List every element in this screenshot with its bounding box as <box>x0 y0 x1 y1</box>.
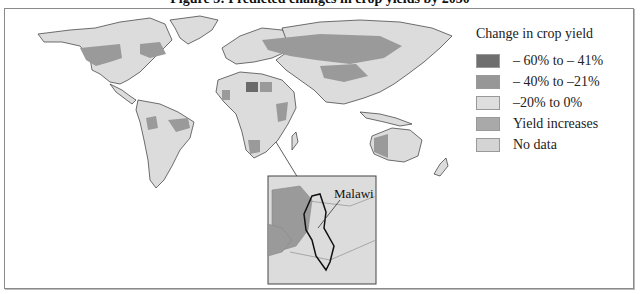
madagascar <box>292 132 298 150</box>
legend-label: – 60% to – 41% <box>513 53 603 69</box>
legend-item: – 40% to –21% <box>476 71 636 92</box>
indonesia <box>360 112 412 126</box>
legend-item: –20% to 0% <box>476 92 636 113</box>
legend-item: – 60% to – 41% <box>476 50 636 71</box>
legend-swatch <box>476 117 500 131</box>
west-africa-decline <box>222 90 230 100</box>
peru-decline <box>146 116 158 130</box>
legend-title: Change in crop yield <box>476 26 636 42</box>
legend-item: No data <box>476 134 636 155</box>
legend-label: No data <box>513 137 557 153</box>
legend-label: Yield increases <box>513 116 598 132</box>
southern-africa-decline <box>248 140 260 154</box>
legend-label: – 40% to –21% <box>513 74 600 90</box>
new-zealand <box>434 158 448 176</box>
egypt-decline <box>260 82 272 92</box>
legend-swatch <box>476 96 500 110</box>
south-america <box>136 100 194 188</box>
asia <box>276 20 452 104</box>
legend: Change in crop yield – 60% to – 41% – 40… <box>476 26 636 155</box>
legend-item: Yield increases <box>476 113 636 134</box>
legend-swatch <box>476 75 500 89</box>
central-america <box>110 84 136 104</box>
inset-label-malawi: Malawi <box>334 186 374 202</box>
legend-swatch <box>476 138 500 152</box>
legend-swatch <box>476 54 500 68</box>
greenland <box>170 16 218 44</box>
inset-pointer <box>276 142 298 178</box>
legend-label: –20% to 0% <box>513 95 582 111</box>
libya-severe <box>246 82 258 92</box>
